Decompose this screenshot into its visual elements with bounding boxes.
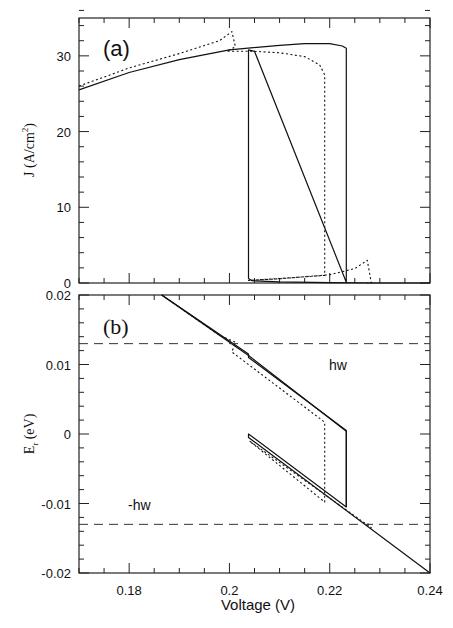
y-title-a-main: J (A/cm bbox=[22, 132, 38, 177]
series-dotted-panel-a bbox=[79, 32, 371, 283]
x-tick-label: 0.18 bbox=[116, 583, 141, 598]
y-axis-title-b: Er (eV) bbox=[22, 413, 40, 454]
y-tick-label: 10 bbox=[57, 200, 71, 215]
y-tick-label: 0 bbox=[64, 427, 71, 442]
plot-frame-b bbox=[79, 295, 430, 573]
axis-ticks bbox=[79, 10, 430, 573]
neg-hw-annotation: -hw bbox=[128, 497, 151, 513]
chart-figure: 0102030-0.02-0.0100.010.020.180.20.220.2… bbox=[0, 0, 453, 628]
y-tick-label: -0.02 bbox=[41, 566, 71, 581]
svg-text:Er (eV): Er (eV) bbox=[22, 413, 40, 454]
panel-a-label: (a) bbox=[103, 36, 130, 61]
y-title-a-end: ) bbox=[22, 123, 38, 128]
y-tick-label: 20 bbox=[57, 125, 71, 140]
y-tick-label: 0.02 bbox=[46, 288, 71, 303]
y-axis-title-a: J (A/cm2) bbox=[20, 123, 38, 177]
hw-annotation: hw bbox=[329, 357, 348, 373]
data-series bbox=[79, 32, 430, 573]
series-solid-panel-a bbox=[79, 44, 430, 283]
plot-frame-a bbox=[79, 18, 430, 283]
svg-text:J (A/cm2): J (A/cm2) bbox=[20, 123, 38, 177]
y-tick-label: 0.01 bbox=[46, 358, 71, 373]
x-axis-title: Voltage (V) bbox=[221, 596, 295, 613]
series-solid-panel-b bbox=[162, 295, 430, 573]
y-title-b-main: E bbox=[22, 446, 37, 455]
series-solid-upper-branch-panel-b bbox=[162, 295, 347, 507]
x-tick-label: 0.22 bbox=[317, 583, 342, 598]
series-dotted-panel-b bbox=[162, 295, 372, 528]
y-tick-label: 30 bbox=[57, 49, 71, 64]
panel-b-label: (b) bbox=[103, 314, 129, 339]
tick-labels: 0102030-0.02-0.0100.010.020.180.20.220.2… bbox=[41, 49, 442, 598]
y-tick-label: -0.01 bbox=[41, 497, 71, 512]
x-tick-label: 0.24 bbox=[417, 583, 442, 598]
y-title-b-end: (eV) bbox=[22, 413, 38, 442]
